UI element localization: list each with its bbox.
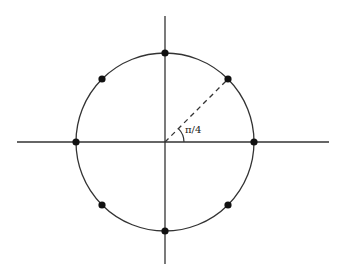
unit-circle-diagram: π/4	[0, 0, 341, 274]
diagram-svg: π/4	[0, 0, 341, 274]
point-6	[161, 227, 168, 234]
point-2	[161, 49, 168, 56]
point-4	[72, 138, 79, 145]
point-3	[98, 75, 105, 82]
point-5	[98, 201, 105, 208]
angle-label: π/4	[185, 124, 201, 135]
point-7	[224, 201, 231, 208]
point-0	[250, 138, 257, 145]
angle-arc	[178, 129, 184, 142]
point-1	[224, 75, 231, 82]
